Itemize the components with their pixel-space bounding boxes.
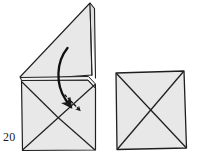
step-number-label: 20 <box>3 131 16 143</box>
origami-step-diagram <box>0 0 199 160</box>
panel-before-fold <box>20 3 96 151</box>
panel-after-fold <box>116 71 187 150</box>
standing-triangle-flap <box>20 3 92 80</box>
